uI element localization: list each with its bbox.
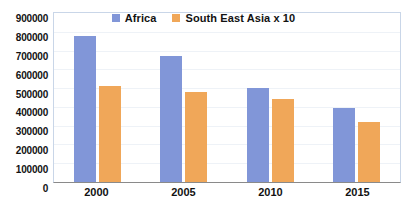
bar-south-east-asia-2005[interactable] [185, 92, 207, 182]
legend-item-south-east-asia: South East Asia x 10 [172, 12, 295, 24]
legend-label-africa: Africa [125, 12, 157, 24]
legend-swatch-south-east-asia [172, 14, 180, 22]
y-axis-tick: 600000 [16, 69, 48, 80]
bar-africa-2010[interactable] [247, 88, 269, 182]
bar-chart: Africa South East Asia x 10 900000800000… [0, 0, 407, 219]
bar-group-2010 [227, 13, 314, 182]
legend-item-africa: Africa [112, 12, 157, 24]
y-axis-tick: 300000 [16, 126, 48, 137]
x-axis-tick-2015: 2015 [314, 186, 401, 198]
bar-south-east-asia-2000[interactable] [99, 86, 121, 182]
chart-legend: Africa South East Asia x 10 [0, 12, 407, 24]
bar-south-east-asia-2015[interactable] [358, 122, 380, 182]
y-axis-tick: 800000 [16, 31, 48, 42]
bar-group-2000 [54, 13, 141, 182]
y-axis-tick: 0 [43, 183, 48, 194]
bar-africa-2015[interactable] [333, 108, 355, 182]
y-axis-tick: 500000 [16, 88, 48, 99]
x-axis-tick-2000: 2000 [53, 186, 140, 198]
bar-south-east-asia-2010[interactable] [272, 99, 294, 182]
y-axis-tick: 700000 [16, 50, 48, 61]
bar-africa-2005[interactable] [160, 56, 182, 182]
legend-label-south-east-asia: South East Asia x 10 [185, 12, 295, 24]
bar-group-2015 [314, 13, 401, 182]
x-axis-tick-labels: 2000200520102015 [53, 186, 401, 198]
y-axis-tick: 200000 [16, 145, 48, 156]
legend-swatch-africa [112, 14, 120, 22]
bar-groups [54, 13, 400, 182]
y-axis-tick: 400000 [16, 107, 48, 118]
y-axis-tick: 100000 [16, 164, 48, 175]
y-axis-tick-labels: 9000008000007000006000005000004000003000… [0, 12, 52, 183]
x-axis-tick-2010: 2010 [227, 186, 314, 198]
bar-group-2005 [141, 13, 228, 182]
bar-africa-2000[interactable] [74, 36, 96, 182]
x-axis-tick-2005: 2005 [140, 186, 227, 198]
plot-area [53, 12, 401, 183]
